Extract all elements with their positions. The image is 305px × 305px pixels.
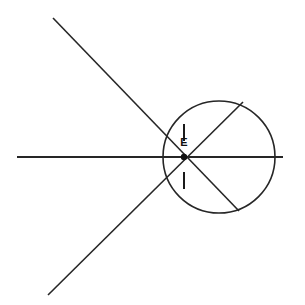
point-label-e: E bbox=[180, 136, 187, 148]
geometry-figure-root: E bbox=[0, 0, 305, 305]
figure-background bbox=[0, 0, 305, 305]
geometry-canvas: E bbox=[0, 0, 305, 305]
vertex-dot-e bbox=[181, 154, 187, 160]
